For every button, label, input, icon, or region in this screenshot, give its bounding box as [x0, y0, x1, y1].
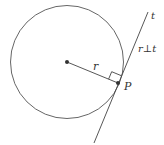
tangent-point	[116, 81, 120, 85]
tangent-line	[94, 12, 148, 143]
radius-label: r	[93, 60, 99, 73]
relation-label: r⊥t	[138, 43, 157, 54]
tangent-label: t	[151, 10, 156, 21]
center-point	[65, 60, 69, 64]
right-angle-marker	[109, 72, 122, 79]
point-label: P	[123, 80, 132, 93]
tangent-diagram: r P t r⊥t	[0, 0, 164, 145]
